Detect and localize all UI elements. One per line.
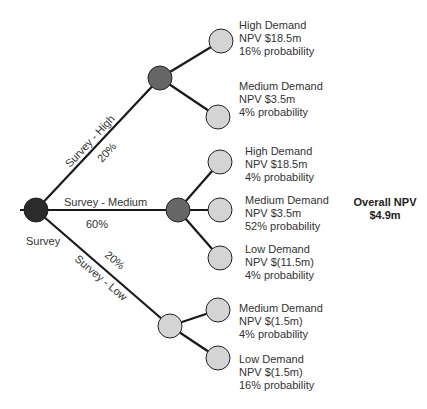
chance-node-survey-high [148, 66, 172, 90]
chance-node-survey-medium [166, 198, 190, 222]
root-label: Survey [26, 235, 60, 248]
outcome-7: Low Demand NPV $(1.5m) 16% probability [239, 353, 314, 392]
outcome-probability: 4% probability [239, 106, 323, 119]
outcome-demand: High Demand [239, 19, 314, 32]
outcome-npv: NPV $18.5m [239, 32, 314, 45]
outcome-probability: 4% probability [245, 171, 314, 184]
outcome-npv: NPV $3.5m [239, 93, 323, 106]
leaf-node [206, 346, 230, 370]
outcome-npv: NPV $(1.5m) [239, 366, 314, 379]
overall-npv-value: $4.9m [340, 209, 427, 222]
outcome-npv: NPV $18.5m [245, 158, 314, 171]
branch-prob-survey-medium: 60% [86, 218, 108, 230]
chance-node-survey-low [158, 314, 182, 338]
outcome-demand: Medium Demand [245, 194, 329, 207]
outcome-probability: 16% probability [239, 45, 314, 58]
outcome-probability: 4% probability [245, 269, 314, 282]
leaf-node [208, 150, 232, 174]
outcome-probability: 52% probability [245, 220, 329, 233]
branch-prob-survey-low: 20% [103, 248, 128, 271]
outcome-5: Low Demand NPV $(11.5m) 4% probability [245, 243, 314, 282]
outcome-4: Medium Demand NPV $3.5m 52% probability [245, 194, 329, 233]
leaf-node [208, 246, 232, 270]
outcome-npv: NPV $(1.5m) [239, 315, 323, 328]
outcome-npv: NPV $(11.5m) [245, 256, 314, 269]
outcome-demand: Low Demand [245, 243, 314, 256]
outcome-1: High Demand NPV $18.5m 16% probability [239, 19, 314, 58]
outcome-demand: Medium Demand [239, 80, 323, 93]
outcome-demand: Medium Demand [239, 302, 323, 315]
outcome-demand: Low Demand [239, 353, 314, 366]
leaf-node [209, 29, 233, 53]
root-decision-node [24, 198, 48, 222]
leaf-node [208, 198, 232, 222]
overall-npv-title: Overall NPV [340, 196, 427, 209]
outcome-probability: 16% probability [239, 379, 314, 392]
outcome-demand: High Demand [245, 145, 314, 158]
outcome-2: Medium Demand NPV $3.5m 4% probability [239, 80, 323, 119]
leaf-node [206, 105, 230, 129]
branch-label-survey-medium: Survey - Medium [64, 196, 147, 208]
leaf-node [206, 298, 230, 322]
overall-npv: Overall NPV $4.9m [340, 196, 427, 222]
outcome-3: High Demand NPV $18.5m 4% probability [245, 145, 314, 184]
outcome-probability: 4% probability [239, 328, 323, 341]
outcome-6: Medium Demand NPV $(1.5m) 4% probability [239, 302, 323, 341]
outcome-npv: NPV $3.5m [245, 207, 329, 220]
